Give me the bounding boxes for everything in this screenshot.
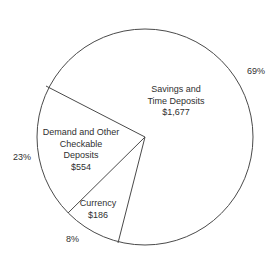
slice-value-savings-and-time-deposits: $1,677 (137, 107, 215, 119)
slice-label-line-2: Time Deposits (137, 96, 215, 108)
slice-label-line-1: Savings and (137, 84, 215, 96)
pie-chart-figure: Savings and Time Deposits $1,677 Demand … (0, 0, 275, 267)
slice-label-demand-and-other-checkable-deposits: Demand and Other Checkable Deposits $554 (33, 127, 129, 173)
slice-value-demand-and-other-checkable-deposits: $554 (33, 162, 129, 174)
slice-value-currency: $186 (67, 210, 129, 222)
slice-label-currency: Currency $186 (67, 198, 129, 221)
slice-percent-savings-and-time-deposits: 69% (247, 66, 265, 77)
slice-percent-demand-and-other-checkable-deposits: 23% (13, 152, 31, 163)
slice-label-savings-and-time-deposits: Savings and Time Deposits $1,677 (137, 84, 215, 119)
slice-label-line-1: Demand and Other (33, 127, 129, 139)
slice-label-line-2: Checkable (33, 139, 129, 151)
slice-percent-currency: 8% (66, 234, 79, 245)
slice-label-line-3: Deposits (33, 150, 129, 162)
slice-label-line-1: Currency (67, 198, 129, 210)
